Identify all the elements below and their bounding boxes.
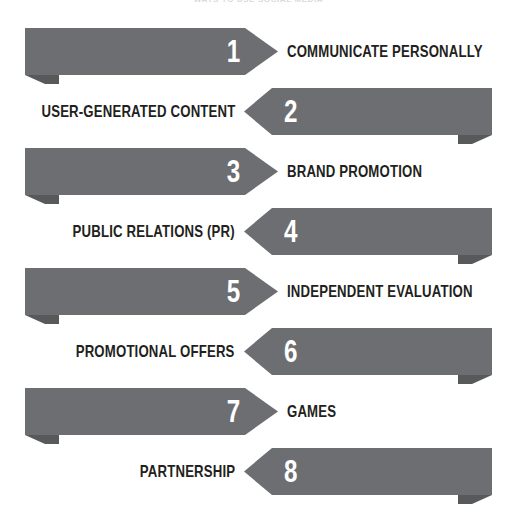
arrow-number: 1	[227, 28, 240, 75]
arrow-row[interactable]: 7GAMES	[0, 388, 517, 444]
arrow-row[interactable]: 5INDEPENDENT EVALUATION	[0, 268, 517, 324]
arrow-number: 2	[284, 88, 297, 135]
page-watermark-text: WAYS TO USE SOCIAL MEDIA	[0, 0, 517, 4]
arrow-label: USER-GENERATED CONTENT	[41, 88, 235, 135]
arrow-label: GAMES	[287, 388, 336, 435]
arrow-shape	[25, 268, 280, 324]
arrow-number: 3	[227, 148, 240, 195]
arrow-label: COMMUNICATE PERSONALLY	[287, 28, 483, 75]
arrow-shape	[244, 88, 494, 144]
arrow-number: 5	[227, 268, 240, 315]
arrow-shape	[25, 148, 280, 204]
arrow-shape	[25, 28, 280, 84]
arrow-row[interactable]: 6PROMOTIONAL OFFERS	[0, 328, 517, 384]
arrow-label: INDEPENDENT EVALUATION	[287, 268, 473, 315]
arrow-shape	[25, 388, 280, 444]
arrow-shape	[244, 208, 494, 264]
arrow-label: BRAND PROMOTION	[287, 148, 422, 195]
arrow-shape	[244, 328, 494, 384]
arrow-list-diagram: WAYS TO USE SOCIAL MEDIA 1COMMUNICATE PE…	[0, 0, 517, 524]
arrow-shape	[244, 448, 494, 504]
arrow-number: 8	[284, 448, 297, 495]
arrow-label: PARTNERSHIP	[140, 448, 235, 495]
arrow-row[interactable]: 4PUBLIC RELATIONS (PR)	[0, 208, 517, 264]
arrow-row[interactable]: 3BRAND PROMOTION	[0, 148, 517, 204]
arrow-label: PUBLIC RELATIONS (PR)	[73, 208, 235, 255]
arrow-number: 6	[284, 328, 297, 375]
arrow-row[interactable]: 8PARTNERSHIP	[0, 448, 517, 504]
arrow-number: 7	[227, 388, 240, 435]
arrow-row[interactable]: 1COMMUNICATE PERSONALLY	[0, 28, 517, 84]
arrow-number: 4	[284, 208, 297, 255]
arrow-label: PROMOTIONAL OFFERS	[76, 328, 235, 375]
arrow-row[interactable]: 2USER-GENERATED CONTENT	[0, 88, 517, 144]
